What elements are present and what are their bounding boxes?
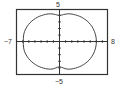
- graph-plot: [0, 0, 118, 88]
- y-min-label: −5: [55, 78, 63, 85]
- x-min-label: −7: [4, 38, 12, 45]
- x-max-label: 8: [111, 38, 115, 45]
- y-max-label: 5: [56, 1, 60, 8]
